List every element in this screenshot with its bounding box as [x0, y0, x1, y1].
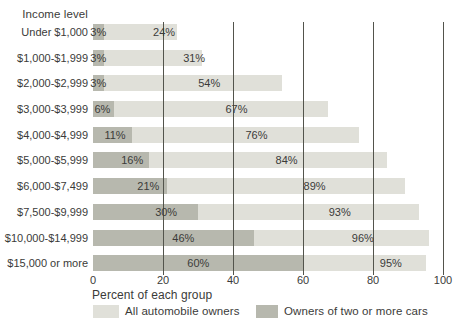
legend-item-all-owners: All automobile owners	[93, 304, 240, 318]
legend-label-all-owners: All automobile owners	[125, 305, 240, 317]
bar-track: 3%24%	[93, 24, 443, 40]
bar-track: 16%84%	[93, 152, 443, 168]
value-label-all-owners: 93%	[329, 204, 351, 220]
x-axis-ticks: 020406080100	[93, 274, 443, 287]
bar-row: $4,000-$4,99911%76%	[0, 123, 457, 149]
bar-track: 3%54%	[93, 75, 443, 91]
category-label: $10,000-$14,999	[0, 230, 88, 246]
bar-rows: Under $1,0003%24%$1,000-$1,9993%31%$2,00…	[0, 20, 457, 277]
value-label-two-or-more: 60%	[187, 255, 209, 271]
x-tick-label: 40	[227, 274, 239, 286]
bar-all-owners	[93, 101, 328, 117]
value-label-two-or-more: 3%	[90, 50, 106, 66]
bar-row: Under $1,0003%24%	[0, 20, 457, 46]
bar-all-owners	[93, 127, 359, 143]
x-axis-label: Percent of each group	[92, 288, 212, 302]
category-label: $15,000 or more	[0, 255, 88, 271]
category-label: $3,000-$3,999	[0, 101, 88, 117]
category-label: $1,000-$1,999	[0, 50, 88, 66]
value-label-two-or-more: 6%	[94, 101, 110, 117]
bar-track: 21%89%	[93, 178, 443, 194]
x-tick-label: 60	[297, 274, 309, 286]
bar-row: $6,000-$7,49921%89%	[0, 174, 457, 200]
value-label-two-or-more: 21%	[137, 178, 159, 194]
value-label-two-or-more: 3%	[90, 75, 106, 91]
x-tick-label: 100	[434, 274, 452, 286]
value-label-all-owners: 89%	[304, 178, 326, 194]
bar-track: 3%31%	[93, 50, 443, 66]
category-label: $4,000-$4,999	[0, 127, 88, 143]
bar-row: $10,000-$14,99946%96%	[0, 226, 457, 252]
value-label-all-owners: 84%	[276, 152, 298, 168]
bar-track: 6%67%	[93, 101, 443, 117]
legend-label-two-or-more: Owners of two or more cars	[284, 305, 428, 317]
bar-track: 11%76%	[93, 127, 443, 143]
value-label-all-owners: 67%	[225, 101, 247, 117]
bar-row: $1,000-$1,9993%31%	[0, 46, 457, 72]
income-auto-ownership-chart: Income level Under $1,0003%24%$1,000-$1,…	[0, 0, 457, 325]
value-label-all-owners: 31%	[183, 50, 205, 66]
value-label-two-or-more: 3%	[90, 24, 106, 40]
bar-track: 60%95%	[93, 255, 443, 271]
value-label-all-owners: 24%	[153, 24, 175, 40]
legend-swatch-two-or-more	[256, 305, 278, 318]
category-label: $6,000-$7,499	[0, 178, 88, 194]
legend-item-two-or-more: Owners of two or more cars	[256, 304, 428, 318]
bar-track: 46%96%	[93, 230, 443, 246]
value-label-two-or-more: 46%	[172, 230, 194, 246]
bar-all-owners	[93, 75, 282, 91]
bar-track: 30%93%	[93, 204, 443, 220]
category-label: Under $1,000	[0, 24, 88, 40]
category-label: $7,500-$9,999	[0, 204, 88, 220]
value-label-all-owners: 76%	[245, 127, 267, 143]
category-label: $2,000-$2,999	[0, 75, 88, 91]
bar-two-or-more	[93, 204, 198, 220]
value-label-all-owners: 54%	[198, 75, 220, 91]
legend-swatch-all-owners	[93, 305, 119, 318]
x-tick-label: 20	[157, 274, 169, 286]
x-tick-label: 80	[367, 274, 379, 286]
category-label: $5,000-$5,999	[0, 152, 88, 168]
x-tick-label: 0	[90, 274, 96, 286]
value-label-all-owners: 96%	[352, 230, 374, 246]
value-label-all-owners: 95%	[380, 255, 402, 271]
value-label-two-or-more: 16%	[121, 152, 143, 168]
bar-row: $3,000-$3,9996%67%	[0, 97, 457, 123]
bar-row: $5,000-$5,99916%84%	[0, 148, 457, 174]
value-label-two-or-more: 11%	[104, 127, 125, 143]
value-label-two-or-more: 30%	[155, 204, 177, 220]
bar-row: $7,500-$9,99930%93%	[0, 200, 457, 226]
chart-title: Income level	[0, 8, 88, 20]
bar-row: $2,000-$2,9993%54%	[0, 71, 457, 97]
